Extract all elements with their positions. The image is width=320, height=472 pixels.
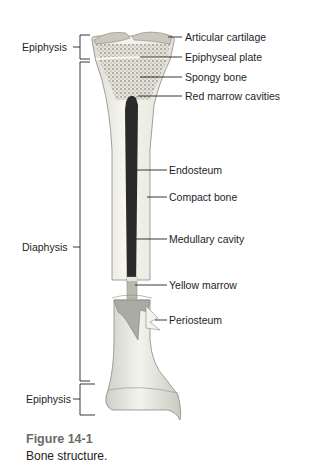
figure-title: Figure 14-1 [26, 432, 93, 446]
label-epiphysis-bottom: Epiphysis [26, 393, 71, 405]
label-epiphyseal-plate: Epiphyseal plate [185, 51, 262, 63]
label-diaphysis: Diaphysis [22, 241, 68, 253]
label-periosteum: Periosteum [169, 314, 222, 326]
label-yellow-marrow: Yellow marrow [169, 279, 237, 291]
label-articular-cartilage: Articular cartilage [185, 31, 266, 43]
figure-caption: Bone structure. [26, 449, 107, 463]
left-brackets [73, 35, 95, 415]
label-red-marrow-cavities: Red marrow cavities [185, 90, 280, 102]
label-medullary-cavity: Medullary cavity [169, 233, 244, 245]
medullary-cavity [125, 96, 138, 290]
label-spongy-bone: Spongy bone [185, 71, 247, 83]
label-endosteum: Endosteum [169, 164, 222, 176]
label-epiphysis-top: Epiphysis [22, 41, 67, 53]
label-compact-bone: Compact bone [169, 191, 237, 203]
